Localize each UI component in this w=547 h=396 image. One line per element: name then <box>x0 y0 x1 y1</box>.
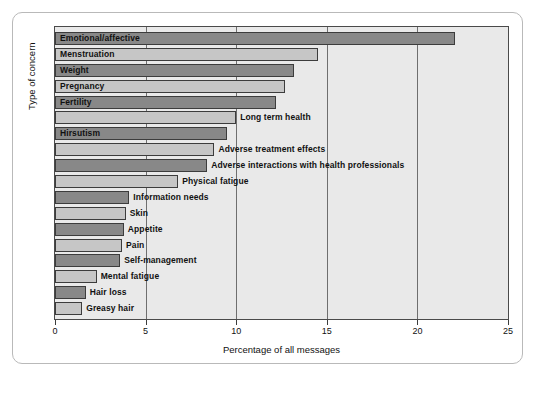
x-tick-25 <box>508 320 509 325</box>
bar <box>55 191 129 204</box>
bar <box>55 223 124 236</box>
bar-label: Skin <box>130 206 148 220</box>
bar-label: Menstruation <box>60 47 115 61</box>
bar-label: Pain <box>126 238 144 252</box>
bar-label: Emotional/affective <box>60 31 140 45</box>
bar-label: Mental fatigue <box>101 269 160 283</box>
x-tick-20 <box>417 320 418 325</box>
x-tick-10 <box>236 320 237 325</box>
bar-label: Adverse interactions with health profess… <box>211 158 404 172</box>
bar-label: Fertility <box>60 95 92 109</box>
chart-page: Emotional/affectiveMenstruationWeightPre… <box>0 0 547 396</box>
x-tick-label-25: 25 <box>503 326 513 336</box>
bar-label: Information needs <box>133 190 208 204</box>
bar-label: Weight <box>60 63 89 77</box>
x-tick-label-15: 15 <box>322 326 332 336</box>
bar <box>55 254 120 267</box>
bar-series: Emotional/affectiveMenstruationWeightPre… <box>55 27 508 319</box>
bar-label: Greasy hair <box>86 301 134 315</box>
bar-label: Hair loss <box>90 285 127 299</box>
bar <box>55 64 294 77</box>
bar-label: Physical fatigue <box>182 174 248 188</box>
x-tick-0 <box>55 320 56 325</box>
x-tick-label-20: 20 <box>412 326 422 336</box>
bar <box>55 239 122 252</box>
x-axis-title: Percentage of all messages <box>54 344 509 355</box>
y-axis-title: Type of concern <box>26 42 37 110</box>
bar-label: Appetite <box>128 222 163 236</box>
bar <box>55 302 82 315</box>
bar <box>55 286 86 299</box>
x-tick-label-0: 0 <box>52 326 57 336</box>
x-tick-5 <box>146 320 147 325</box>
bar-label: Hirsutism <box>60 126 100 140</box>
bar-label: Pregnancy <box>60 79 104 93</box>
x-tick-15 <box>327 320 328 325</box>
bar <box>55 270 97 283</box>
bar <box>55 159 207 172</box>
bar <box>55 175 178 188</box>
x-tick-label-5: 5 <box>143 326 148 336</box>
bar <box>55 111 236 124</box>
bar-label: Adverse treatment effects <box>218 142 325 156</box>
bar-label: Self-management <box>124 253 196 267</box>
bar-label: Long term health <box>240 110 311 124</box>
bar <box>55 207 126 220</box>
bar <box>55 143 214 156</box>
x-tick-label-10: 10 <box>231 326 241 336</box>
